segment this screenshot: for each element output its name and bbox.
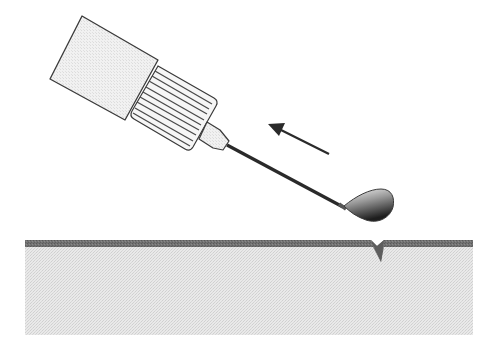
substrate (25, 240, 473, 335)
motion-arrow-icon (268, 123, 329, 154)
substrate-body (25, 246, 473, 335)
syringe (50, 16, 346, 209)
droplet (344, 189, 394, 221)
needle (227, 145, 343, 207)
syringe-droplet-diagram (0, 0, 503, 357)
